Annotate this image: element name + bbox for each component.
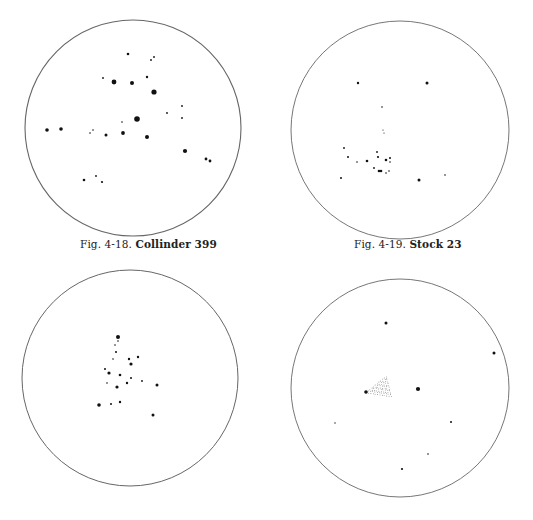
star [382, 129, 383, 130]
star [129, 362, 132, 365]
star [112, 80, 117, 85]
star [121, 131, 125, 135]
star [377, 156, 379, 158]
star [106, 382, 108, 384]
star [380, 170, 383, 173]
star [121, 121, 123, 123]
star [183, 149, 187, 153]
caption-fig-label: Fig. 4-19. [354, 238, 406, 250]
star [334, 422, 335, 423]
caption-fig-name: Stock 23 [409, 238, 461, 250]
star [112, 358, 114, 360]
star [381, 106, 383, 108]
star [83, 179, 86, 182]
star [340, 177, 342, 179]
star [153, 56, 155, 58]
caption-fig-4-19: Fig. 4-19. Stock 23 [354, 238, 462, 250]
caption-fig-name: Collinder 399 [135, 238, 216, 250]
star [416, 387, 420, 391]
star [156, 384, 159, 387]
eyepiece-field-circle [291, 21, 509, 239]
star [388, 170, 390, 172]
star [141, 380, 143, 382]
eyepiece-field-circle [25, 20, 241, 236]
star [450, 421, 452, 423]
star [107, 371, 110, 374]
figure-collinder-399 [25, 20, 241, 236]
star [104, 368, 106, 370]
star [181, 105, 183, 107]
star [127, 53, 130, 56]
star [418, 179, 421, 182]
star [146, 76, 148, 78]
star [134, 116, 140, 122]
star [105, 134, 108, 137]
star [115, 385, 118, 388]
star [389, 157, 391, 159]
star [373, 167, 375, 169]
star [115, 351, 117, 353]
star [92, 129, 94, 131]
star [356, 161, 358, 163]
star [427, 453, 429, 455]
star [150, 59, 152, 61]
star [126, 382, 128, 384]
star [343, 147, 345, 149]
star [364, 390, 368, 394]
figure-bottom-left-field [22, 270, 238, 486]
star [493, 352, 496, 355]
star [205, 158, 208, 161]
figure-stock-23 [291, 21, 509, 239]
star [137, 356, 139, 358]
star [376, 151, 378, 153]
star [389, 161, 391, 163]
star [366, 160, 369, 163]
star [357, 82, 359, 84]
star [444, 174, 446, 176]
star [114, 344, 116, 346]
star [101, 181, 103, 183]
star [347, 156, 349, 158]
star [97, 403, 101, 407]
star [385, 172, 387, 174]
star [166, 112, 168, 114]
star [130, 377, 132, 379]
star [181, 117, 183, 119]
star [385, 159, 388, 162]
star [116, 335, 120, 339]
star [89, 132, 91, 134]
star [426, 82, 429, 85]
star [119, 401, 121, 403]
caption-fig-4-18: Fig. 4-18. Collinder 399 [80, 238, 217, 250]
star [128, 358, 130, 360]
star [119, 374, 122, 377]
star [45, 128, 49, 132]
star [117, 340, 119, 342]
figure-bottom-right-field [291, 279, 509, 497]
figure-canvas [0, 0, 533, 520]
star [151, 89, 156, 94]
star [110, 403, 112, 405]
star [209, 160, 212, 163]
star [385, 322, 388, 325]
star [145, 135, 149, 139]
star [102, 77, 104, 79]
star [95, 175, 97, 177]
eyepiece-field-circle [291, 279, 509, 497]
star [383, 132, 384, 133]
star [401, 468, 403, 470]
caption-fig-label: Fig. 4-18. [80, 238, 132, 250]
star [59, 127, 63, 131]
nebula-stipple [366, 376, 392, 397]
star [152, 414, 155, 417]
star [130, 81, 134, 85]
